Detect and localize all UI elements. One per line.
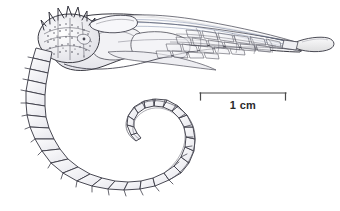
segment-tip [131, 133, 141, 141]
scale-bar-label: 1 cm [198, 99, 288, 111]
segment [140, 178, 155, 189]
scientific-illustration-figure: 1 cm [0, 0, 340, 211]
segment [27, 115, 49, 128]
eye-pupil [83, 38, 86, 41]
seahorse-line-drawing [0, 0, 340, 211]
segment [30, 127, 54, 139]
tail-tip-group [282, 37, 334, 51]
tail-tip-peduncle [282, 40, 298, 50]
